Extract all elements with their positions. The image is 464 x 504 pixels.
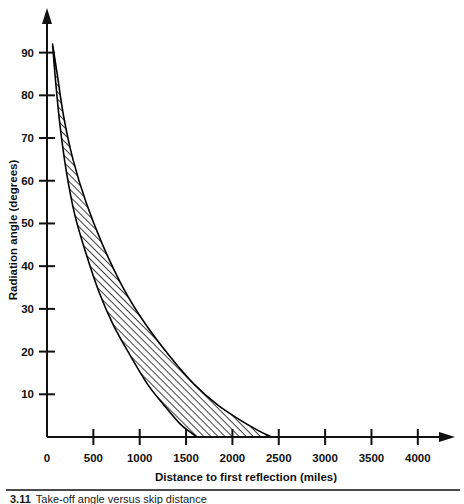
data-band xyxy=(53,44,272,437)
figure-caption-number: 3.11 xyxy=(10,493,31,504)
x-tick-label: 1500 xyxy=(173,452,199,464)
y-axis-title: Radiation angle (degrees) xyxy=(7,160,19,301)
y-tick-label: 60 xyxy=(21,175,34,187)
x-tick-label: 2500 xyxy=(266,452,292,464)
y-tick-label: 80 xyxy=(21,89,34,101)
y-tick-label: 30 xyxy=(21,303,34,315)
y-tick-label: 70 xyxy=(21,132,34,144)
radiation-angle-chart: 102030405060708090 050010001500200025003… xyxy=(0,0,464,504)
y-axis: 102030405060708090 xyxy=(21,8,55,437)
figure-container: 102030405060708090 050010001500200025003… xyxy=(0,0,464,504)
y-tick-label: 90 xyxy=(21,47,34,59)
x-tick-label: 3000 xyxy=(312,452,338,464)
x-tick-label: 2000 xyxy=(220,452,246,464)
x-tick-label: 4000 xyxy=(405,452,431,464)
x-tick-label: 1000 xyxy=(127,452,153,464)
y-tick-label: 20 xyxy=(21,346,34,358)
x-tick-label: 500 xyxy=(84,452,103,464)
x-tick-label: 0 xyxy=(44,452,50,464)
caption-divider xyxy=(6,489,460,491)
y-tick-label: 50 xyxy=(21,217,34,229)
figure-caption: 3.11Take-off angle versus skip distance xyxy=(10,493,462,504)
x-tick-label: 3500 xyxy=(359,452,385,464)
figure-caption-text: Take-off angle versus skip distance xyxy=(36,493,207,504)
y-tick-label: 40 xyxy=(21,260,34,272)
y-tick-label: 10 xyxy=(21,388,34,400)
x-axis-title: Distance to first reflection (miles) xyxy=(155,471,337,483)
